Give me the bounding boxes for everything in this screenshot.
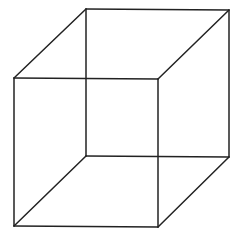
- back-top-edge: [86, 9, 229, 10]
- back-bottom-edge: [86, 156, 229, 157]
- cube-diagram: [0, 0, 243, 240]
- cube-edges: [14, 9, 229, 227]
- top-right-connector: [158, 10, 229, 79]
- bottom-right-connector: [158, 157, 229, 227]
- bottom-left-connector: [14, 156, 86, 226]
- top-left-connector: [14, 9, 86, 78]
- front-bottom-edge: [14, 226, 158, 227]
